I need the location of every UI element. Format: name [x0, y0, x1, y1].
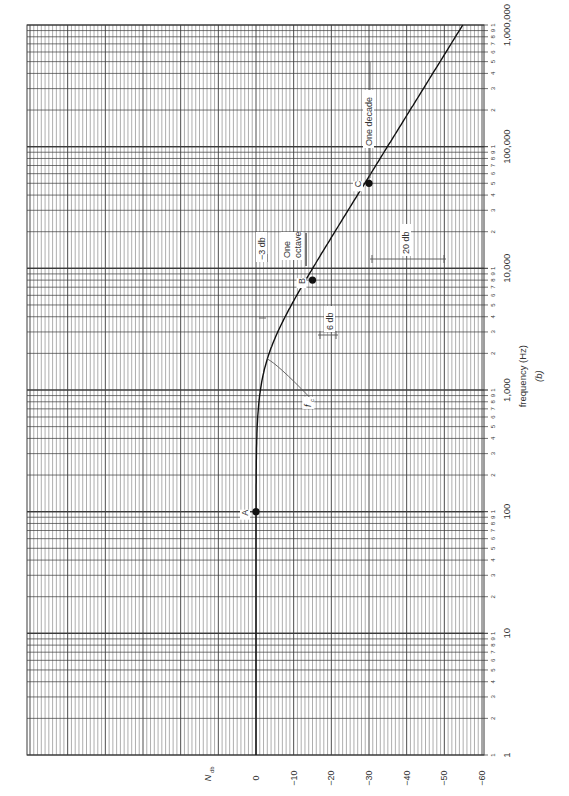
octave-label: Oneoctave	[281, 231, 303, 260]
svg-text:4: 4	[490, 679, 496, 683]
svg-text:6: 6	[490, 50, 496, 54]
svg-text:(b): (b)	[533, 370, 544, 382]
minor-tick-label: 2	[490, 108, 496, 112]
minor-tick-label: 1	[490, 509, 496, 513]
svg-text:1,000: 1,000	[501, 378, 512, 402]
svg-text:100: 100	[501, 504, 512, 520]
svg-text:3: 3	[490, 573, 496, 577]
point-a	[252, 508, 259, 515]
svg-text:−20: −20	[326, 770, 336, 785]
svg-text:−60: −60	[477, 770, 487, 785]
svg-text:4: 4	[490, 193, 496, 197]
minor-tick-label: 8	[490, 521, 496, 525]
svg-text:10,000: 10,000	[501, 254, 512, 283]
svg-text:3: 3	[490, 695, 496, 699]
svg-text:5: 5	[490, 546, 496, 550]
svg-text:1: 1	[501, 752, 512, 757]
minor-tick-label: 5	[490, 424, 496, 428]
point-c	[365, 180, 372, 187]
svg-text:6: 6	[490, 293, 496, 297]
svg-text:9: 9	[490, 150, 496, 154]
svg-text:7: 7	[490, 528, 496, 532]
svg-text:4: 4	[490, 436, 496, 440]
svg-text:−50: −50	[439, 770, 449, 785]
xtick-label: 1,000	[501, 378, 512, 402]
svg-text:9: 9	[490, 637, 496, 641]
fc-label: fc	[302, 397, 315, 409]
minor-tick-label: 2	[490, 473, 496, 477]
svg-text:6 db: 6 db	[325, 312, 335, 330]
minor-tick-label: 4	[490, 436, 496, 440]
xtick-label: 10	[501, 628, 512, 639]
svg-text:5: 5	[490, 668, 496, 672]
minor-tick-label: 7	[490, 42, 496, 46]
minor-tick-label: 7	[490, 650, 496, 654]
svg-text:4: 4	[490, 71, 496, 75]
minor-tick-label: 8	[490, 156, 496, 160]
minor-tick-label: 9	[490, 272, 496, 276]
svg-text:−40: −40	[402, 770, 412, 785]
minor-tick-label: 1	[490, 23, 496, 27]
svg-text:3: 3	[490, 451, 496, 455]
ytick-label: −10	[289, 770, 299, 785]
svg-text:8: 8	[490, 643, 496, 647]
svg-text:One decade: One decade	[364, 97, 374, 146]
svg-text:8: 8	[490, 399, 496, 403]
minor-tick-label: 6	[490, 658, 496, 662]
minor-tick-label: 8	[490, 34, 496, 38]
twenty-db-label: 20 db	[400, 224, 411, 256]
ytick-label: −60	[477, 770, 487, 785]
ytick-label: −20	[326, 770, 336, 785]
minor-tick-label: 9	[490, 28, 496, 32]
svg-text:9: 9	[490, 393, 496, 397]
minor-tick-label: 7	[490, 528, 496, 532]
svg-text:−3 db: −3 db	[257, 237, 267, 260]
svg-text:2: 2	[490, 716, 496, 720]
svg-text:1: 1	[490, 509, 496, 513]
svg-text:20 db: 20 db	[401, 231, 411, 254]
svg-text:5: 5	[490, 181, 496, 185]
minor-tick-label: 2	[490, 351, 496, 355]
minor-tick-label: 8	[490, 643, 496, 647]
svg-text:0: 0	[251, 775, 261, 780]
svg-text:2: 2	[490, 229, 496, 233]
svg-text:1: 1	[490, 753, 496, 757]
minor-tick-label: 9	[490, 150, 496, 154]
point-label-c: C	[353, 180, 363, 191]
xtick-label: 100	[501, 504, 512, 520]
svg-text:9: 9	[490, 515, 496, 519]
ylabel: Ndb	[203, 766, 215, 782]
caption: (b)	[533, 370, 544, 382]
minor-tick-label: 6	[490, 171, 496, 175]
xtick-label: 100,000	[501, 129, 512, 163]
ytick-label: −30	[364, 770, 374, 785]
minor-tick-label: 9	[490, 637, 496, 641]
minor-tick-label: 5	[490, 303, 496, 307]
svg-text:N: N	[203, 774, 213, 781]
minor-tick-label: 3	[490, 451, 496, 455]
svg-text:7: 7	[490, 650, 496, 654]
minor-tick-label: 3	[490, 330, 496, 334]
svg-text:7: 7	[490, 163, 496, 167]
minor-tick-label: 9	[490, 515, 496, 519]
fc-pointer	[267, 359, 309, 397]
svg-text:1,000,000: 1,000,000	[501, 4, 512, 46]
minor-tick-label: 5	[490, 546, 496, 550]
svg-text:A: A	[240, 510, 250, 516]
svg-text:5: 5	[490, 59, 496, 63]
minor-tick-label: 4	[490, 679, 496, 683]
minor-tick-label: 7	[490, 163, 496, 167]
svg-text:8: 8	[490, 34, 496, 38]
svg-text:6: 6	[490, 171, 496, 175]
svg-text:1: 1	[490, 144, 496, 148]
svg-text:1: 1	[490, 266, 496, 270]
svg-text:6: 6	[490, 658, 496, 662]
minor-tick-label: 3	[490, 695, 496, 699]
minor-tick-label: 1	[490, 144, 496, 148]
minor-tick-label: 4	[490, 71, 496, 75]
minor-tick-label: 4	[490, 314, 496, 318]
xlabel: frequency (Hz)	[517, 345, 528, 407]
minor-tick-label: 5	[490, 668, 496, 672]
svg-text:4: 4	[490, 558, 496, 562]
svg-text:−10: −10	[289, 770, 299, 785]
